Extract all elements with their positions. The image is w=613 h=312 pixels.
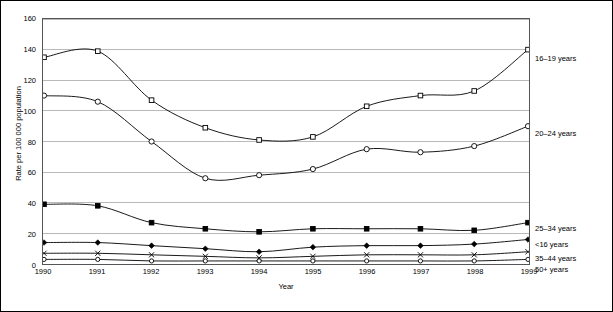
x-tick-label: 1992 [143, 267, 160, 276]
x-tick-label: 1998 [467, 267, 484, 276]
y-tick-label: 20 [28, 230, 36, 239]
series-label-under-16: <16 years [535, 240, 568, 249]
y-tick-label: 120 [23, 75, 36, 84]
x-tick-label: 1991 [89, 267, 106, 276]
plot-area [42, 18, 530, 265]
y-tick-label: 60 [28, 168, 36, 177]
x-axis-tick-labels: 1990 1991 1992 1993 1994 1995 1996 1997 … [42, 267, 530, 279]
y-tick-label: 40 [28, 199, 36, 208]
series-label-20-24: 20–24 years [535, 129, 576, 138]
chart-canvas [43, 19, 529, 264]
series-label-50-plus: 50+ years [535, 265, 568, 274]
x-tick-label: 1997 [413, 267, 430, 276]
x-tick-label: 1990 [35, 267, 52, 276]
y-tick-label: 140 [23, 44, 36, 53]
x-tick-label: 1996 [359, 267, 376, 276]
y-tick-label: 80 [28, 137, 36, 146]
x-tick-label: 1995 [305, 267, 322, 276]
chart-figure: Rate per 100 000 population 160 140 120 … [0, 0, 613, 312]
x-axis-title: Year [42, 282, 530, 291]
x-tick-label: 1994 [251, 267, 268, 276]
x-tick-label: 1993 [197, 267, 214, 276]
y-axis-tick-labels: 160 140 120 100 80 60 40 20 0 [13, 18, 39, 265]
series-5 [43, 257, 529, 263]
series-label-25-34: 25–34 years [535, 224, 576, 233]
series-label-16-19: 16–19 years [535, 54, 576, 63]
series-4 [43, 249, 529, 260]
series-0 [43, 47, 529, 142]
y-tick-label: 160 [23, 14, 36, 23]
series-3 [43, 237, 529, 255]
series-2 [43, 202, 529, 234]
series-label-35-44: 35–44 years [535, 254, 576, 263]
y-tick-label: 100 [23, 106, 36, 115]
series-1 [43, 93, 529, 181]
